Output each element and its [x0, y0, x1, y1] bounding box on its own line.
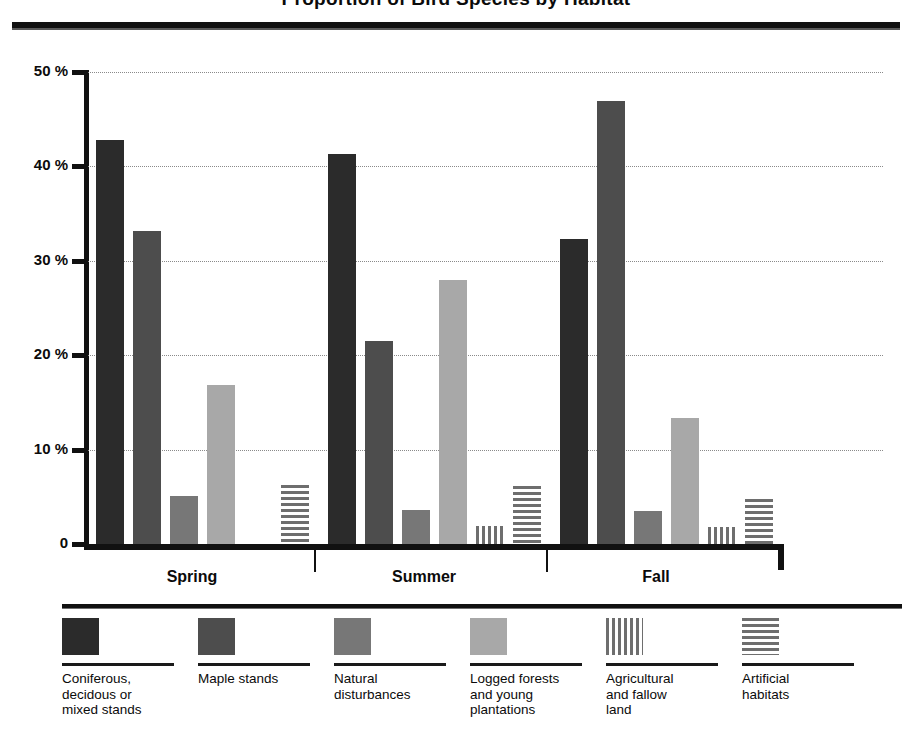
y-axis-tick-label: 40 %: [34, 156, 68, 173]
bar-fall-series-4: [671, 418, 699, 544]
gridline: [88, 72, 883, 73]
legend-item-6[interactable]: Artificial habitats: [742, 618, 860, 702]
plot-area: [88, 72, 883, 544]
legend-item-underline: [470, 663, 582, 666]
legend-item-underline: [334, 663, 446, 666]
gridline: [88, 166, 883, 167]
bar-fall-series-5: [708, 527, 736, 544]
legend-divider-rule: [62, 604, 902, 608]
title-divider-rule: [12, 22, 900, 28]
bar-summer-series-6: [513, 486, 541, 544]
legend-item-1[interactable]: Coniferous, decidous or mixed stands: [62, 618, 180, 718]
legend-item-3[interactable]: Natural disturbances: [334, 618, 452, 702]
solid-light-swatch: [470, 618, 507, 655]
bar-fall-series-1: [560, 239, 588, 544]
y-axis-tick-label: 30 %: [34, 251, 68, 268]
legend-item-underline: [198, 663, 310, 666]
gridline: [88, 355, 883, 356]
legend-item-5[interactable]: Agricultural and fallow land: [606, 618, 724, 718]
bar-fall-series-6: [745, 499, 773, 544]
y-axis-tick-label: 50 %: [34, 62, 68, 79]
bar-spring-series-4: [207, 385, 235, 544]
y-axis-tick-mark: [72, 70, 86, 75]
x-axis-group-label-summer: Summer: [308, 568, 540, 586]
legend-item-2[interactable]: Maple stands: [198, 618, 316, 687]
bar-summer-series-5: [476, 526, 504, 544]
y-axis-tick-mark: [72, 259, 86, 264]
gridline: [88, 261, 883, 262]
legend-item-label: Coniferous, decidous or mixed stands: [62, 671, 180, 718]
solid-medium-swatch: [334, 618, 371, 655]
bar-summer-series-4: [439, 280, 467, 544]
bar-summer-series-3: [402, 510, 430, 544]
bar-spring-series-6: [281, 485, 309, 544]
bar-spring-series-2: [133, 231, 161, 544]
x-axis-group-label-fall: Fall: [540, 568, 772, 586]
legend-item-label: Logged forests and young plantations: [470, 671, 588, 718]
page-title: Proportion of Bird Species by Habitat: [0, 0, 912, 10]
legend-item-underline: [742, 663, 854, 666]
legend-item-underline: [62, 663, 174, 666]
x-axis-line: [84, 544, 784, 550]
bar-summer-series-1: [328, 154, 356, 544]
chart-title-clipped: Proportion of Bird Species by Habitat: [0, 0, 912, 18]
horizontal-stripes-swatch: [742, 618, 779, 655]
y-axis-tick-mark: [72, 353, 86, 358]
bar-spring-series-3: [170, 496, 198, 544]
legend-item-label: Agricultural and fallow land: [606, 671, 724, 718]
y-axis-tick-label: 20 %: [34, 345, 68, 362]
chart-legend: Coniferous, decidous or mixed standsMapl…: [62, 604, 902, 744]
bar-fall-series-2: [597, 101, 625, 544]
x-axis-end-cap: [778, 544, 784, 570]
solid-dark-swatch: [62, 618, 99, 655]
y-axis-tick-label: 0: [60, 534, 68, 551]
legend-item-underline: [606, 663, 718, 666]
legend-item-4[interactable]: Logged forests and young plantations: [470, 618, 588, 718]
vertical-stripes-swatch: [606, 618, 643, 655]
y-axis-tick-mark: [72, 542, 86, 547]
y-axis-tick-mark: [72, 448, 86, 453]
bar-spring-series-1: [96, 140, 124, 544]
y-axis-tick-label: 10 %: [34, 440, 68, 457]
chart-page: Proportion of Bird Species by Habitat 50…: [0, 0, 912, 749]
legend-item-label: Natural disturbances: [334, 671, 452, 702]
legend-item-label: Maple stands: [198, 671, 316, 687]
bar-summer-series-2: [365, 341, 393, 544]
solid-medium-dark-swatch: [198, 618, 235, 655]
x-axis-group-label-spring: Spring: [76, 568, 308, 586]
bar-fall-series-3: [634, 511, 662, 544]
legend-item-label: Artificial habitats: [742, 671, 860, 702]
y-axis-tick-mark: [72, 164, 86, 169]
